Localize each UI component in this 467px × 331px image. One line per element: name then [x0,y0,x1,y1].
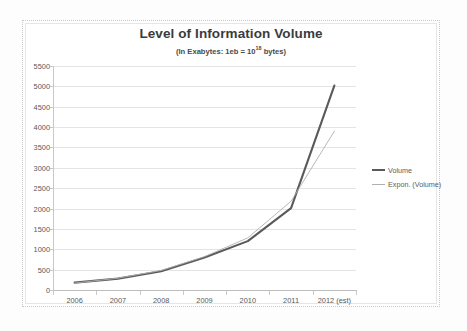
y-axis-tick-label: 1500 [34,224,50,233]
x-axis-tick-mark [96,291,97,295]
y-axis-tick-label: 3500 [34,143,50,152]
y-axis-tick-label: 2000 [34,204,50,213]
x-axis-tick-label: 2010 [240,296,256,305]
x-axis-tick-label: 2011 [283,296,299,305]
series-line-expon-volume [75,131,335,283]
series-plot [53,66,356,290]
y-axis-labels: 0500100015002000250030003500400045005000… [22,66,50,290]
y-axis-tick-label: 4000 [34,123,50,132]
legend-line-icon-volume [372,169,385,171]
x-axis-tick-label: 2007 [110,296,126,305]
x-axis-tick-label: 2008 [153,296,169,305]
x-axis-tick-mark [269,291,270,295]
legend-label-trendline: Expon. (Volume) [388,180,441,189]
y-axis-tick-label: 1000 [34,245,50,254]
y-axis-tick-label: 2500 [34,184,50,193]
x-axis-tick-mark [140,291,141,295]
x-axis-tick-label: 2009 [196,296,212,305]
y-axis-tick-label: 5000 [34,82,50,91]
legend-item-trendline[interactable]: Expon. (Volume) [372,177,438,191]
x-axis-tick-label: 2012 (est) [318,296,351,305]
y-axis-tick-label: 500 [38,265,50,274]
chart-legend: Volume Expon. (Volume) [372,163,438,191]
x-axis-tick-mark [183,291,184,295]
series-line-volume [75,86,335,283]
y-axis-tick-label: 4500 [34,102,50,111]
x-axis-tick-mark [313,291,314,295]
legend-label-volume: Volume [388,166,412,175]
x-axis-tick-mark [53,291,54,295]
legend-item-volume[interactable]: Volume [372,163,438,177]
legend-line-icon-trendline [372,184,385,185]
chart-canvas: Level of Information Volume (In Exabytes… [0,0,467,331]
x-axis-tick-label: 2006 [66,296,82,305]
x-axis-tick-mark [226,291,227,295]
x-axis-labels: 2006200720082009201020112012 (est) [53,296,357,310]
y-axis-tick-label: 3000 [34,163,50,172]
y-axis-tick-label: 5500 [34,62,50,71]
x-axis-tick-mark [356,291,357,295]
